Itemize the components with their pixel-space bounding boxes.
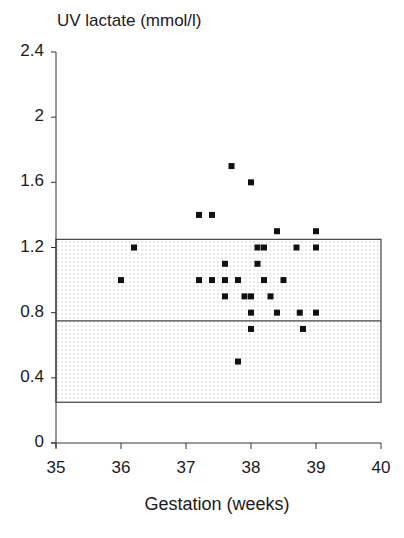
data-point [297,310,303,316]
data-point [313,245,319,251]
x-axis-title: Gestation (weeks) [0,494,404,515]
data-point [235,359,241,365]
y-tick-label: 1.2 [4,237,44,257]
x-tick-label: 35 [36,458,76,478]
data-point [255,245,261,251]
data-point [261,277,267,283]
data-point [209,212,215,218]
data-point [222,293,228,299]
data-point [229,163,235,169]
data-point [196,212,202,218]
data-point [131,245,137,251]
x-tick-label: 38 [231,458,271,478]
data-point [248,310,254,316]
data-point [196,277,202,283]
data-point [268,293,274,299]
x-tick-label: 40 [361,458,401,478]
data-point [313,310,319,316]
y-tick-label: 0.4 [4,367,44,387]
y-tick-label: 1.6 [4,171,44,191]
reference-band [56,239,381,402]
data-point [209,277,215,283]
data-point [281,277,287,283]
data-point [248,293,254,299]
data-point [242,293,248,299]
data-point [118,277,124,283]
data-point [261,245,267,251]
data-point [248,179,254,185]
x-tick-label: 39 [296,458,336,478]
y-tick-label: 2.4 [4,41,44,61]
data-point [313,228,319,234]
y-tick-label: 2 [4,106,44,126]
data-point [248,326,254,332]
data-point [222,261,228,267]
data-point [274,310,280,316]
data-point [255,261,261,267]
data-point [274,228,280,234]
data-point [294,245,300,251]
y-tick-label: 0 [4,432,44,452]
x-tick-label: 37 [166,458,206,478]
x-tick-label: 36 [101,458,141,478]
data-point [235,277,241,283]
data-point [300,326,306,332]
scatter-chart: UV lactate (mmol/l) 00.40.81.21.622.4 35… [0,0,404,538]
y-tick-label: 0.8 [4,302,44,322]
data-point [222,277,228,283]
